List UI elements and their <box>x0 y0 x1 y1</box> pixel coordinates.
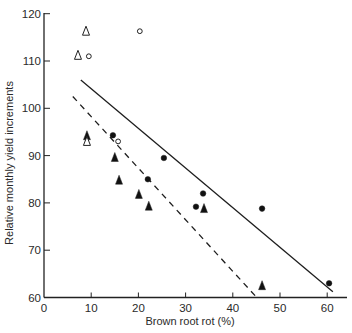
x-tick-label: 60 <box>321 302 334 314</box>
filled-circle-marker-icon <box>110 132 116 138</box>
y-ticks: 60708090100110120 <box>22 8 50 304</box>
filled-triangle-marker-icon <box>135 189 142 198</box>
y-tick-label: 70 <box>28 244 41 256</box>
open-circle-marker-icon <box>116 139 121 144</box>
y-tick-label: 120 <box>22 8 41 20</box>
filled-triangle-marker-icon <box>201 204 208 213</box>
open-triangle-marker-icon <box>83 26 90 35</box>
open-circle-marker-icon <box>137 29 142 34</box>
y-tick-label: 100 <box>22 102 41 114</box>
x-tick-label: 40 <box>226 302 239 314</box>
x-tick-label: 0 <box>41 302 47 314</box>
filled-circle-marker-icon <box>326 281 332 287</box>
y-tick-label: 60 <box>28 292 41 304</box>
y-tick-label: 110 <box>23 55 41 67</box>
x-axis-label: Brown root rot (%) <box>145 315 234 327</box>
x-ticks: 0102030405060 <box>41 293 334 314</box>
filled-triangle-marker-icon <box>145 201 152 210</box>
x-tick-label: 20 <box>132 302 145 314</box>
filled-circle-marker-icon <box>200 191 206 197</box>
regression-lines <box>73 80 333 296</box>
regression-solid-line <box>81 80 333 292</box>
scatter-chart: 0102030405060 60708090100110120 Brown ro… <box>0 0 352 333</box>
y-tick-label: 80 <box>28 197 41 209</box>
regression-dashed-line <box>73 96 256 296</box>
filled-circle-marker-icon <box>161 155 167 161</box>
x-tick-label: 50 <box>274 302 287 314</box>
filled-circle-marker-icon <box>259 206 265 212</box>
open-circle-marker-icon <box>86 54 91 59</box>
data-points <box>74 26 331 289</box>
filled-circle-marker-icon <box>193 204 199 210</box>
open-triangle-marker-icon <box>74 50 81 59</box>
y-axis-label: Relative monthly yield increments <box>3 81 15 245</box>
filled-triangle-marker-icon <box>116 175 123 184</box>
filled-triangle-marker-icon <box>111 152 118 161</box>
x-tick-label: 30 <box>179 302 192 314</box>
filled-triangle-marker-icon <box>259 281 266 290</box>
filled-circle-marker-icon <box>145 176 151 182</box>
y-tick-label: 90 <box>28 150 41 162</box>
x-tick-label: 10 <box>85 302 98 314</box>
